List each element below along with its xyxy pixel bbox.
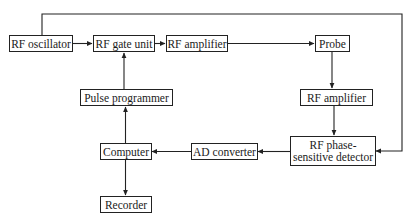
node-ad-converter: AD converter xyxy=(191,143,258,160)
node-rf-gate-unit: RF gate unit xyxy=(93,35,155,52)
node-rf-phase-sensitive-detector: RF phase- sensitive detector xyxy=(290,136,376,166)
node-computer: Computer xyxy=(100,143,152,160)
node-pulse-programmer: Pulse programmer xyxy=(80,89,173,106)
detector-label-line-1: RF phase- xyxy=(310,139,357,152)
connector-layer xyxy=(0,0,409,222)
node-rf-amplifier-transmit: RF amplifier xyxy=(166,35,228,52)
detector-label-line-2: sensitive detector xyxy=(293,151,373,164)
node-probe: Probe xyxy=(315,35,350,52)
node-rf-amplifier-receive: RF amplifier xyxy=(300,89,373,106)
node-rf-oscillator: RF oscillator xyxy=(9,35,73,52)
node-recorder: Recorder xyxy=(100,196,152,213)
